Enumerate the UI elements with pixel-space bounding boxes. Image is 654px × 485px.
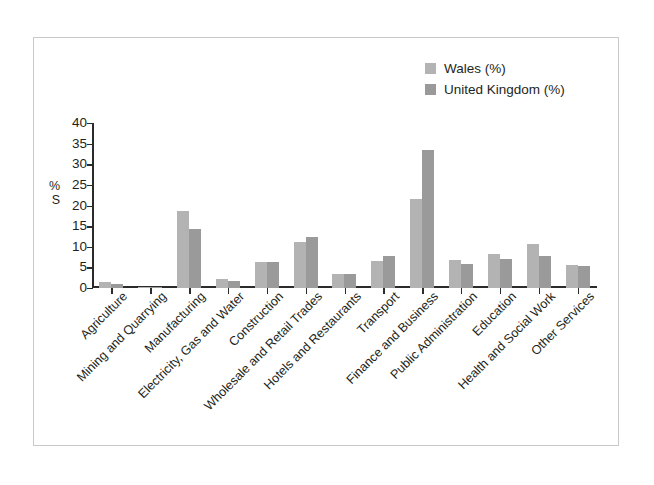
bar-group bbox=[92, 123, 131, 288]
y-axis-tick-mark bbox=[87, 123, 93, 124]
legend-label-united-kingdom: United Kingdom (%) bbox=[444, 83, 565, 97]
bar bbox=[111, 284, 123, 288]
y-axis-tick-label: 0 bbox=[79, 281, 87, 295]
y-axis-tick-mark bbox=[87, 185, 93, 186]
y-axis-tick-label: 15 bbox=[72, 219, 87, 233]
y-axis-tick-mark bbox=[87, 164, 93, 165]
chart-page: Wales (%) United Kingdom (%) % S 4035302… bbox=[0, 0, 654, 485]
bar bbox=[228, 281, 240, 288]
x-axis-category-labels: AgricultureMining and QuarryingManufactu… bbox=[92, 290, 612, 420]
y-axis-tick-mark bbox=[87, 206, 93, 207]
y-axis-title-line-2: S bbox=[40, 194, 60, 208]
y-axis-tick-label: 5 bbox=[79, 261, 87, 275]
y-axis-tick-label: 30 bbox=[72, 158, 87, 172]
legend-swatch-wales bbox=[425, 63, 436, 74]
y-axis-tick-mark bbox=[87, 267, 93, 268]
y-axis-title-line-1: % bbox=[40, 180, 60, 194]
y-axis-tick-labels: 4035302520151050 bbox=[63, 116, 87, 290]
y-axis-tick-label: 40 bbox=[72, 116, 87, 130]
legend-label-wales: Wales (%) bbox=[444, 62, 506, 76]
y-axis-tick-label: 25 bbox=[72, 178, 87, 192]
y-axis-tick-mark bbox=[87, 144, 93, 145]
y-axis-tick-mark bbox=[87, 226, 93, 227]
legend-item-wales: Wales (%) bbox=[425, 62, 565, 76]
chart-legend: Wales (%) United Kingdom (%) bbox=[425, 62, 565, 96]
y-axis-title: % S bbox=[40, 180, 60, 207]
y-axis-tick-mark bbox=[87, 247, 93, 248]
y-axis-tick-label: 20 bbox=[72, 199, 87, 213]
bar bbox=[99, 282, 111, 288]
y-axis-tick-label: 10 bbox=[72, 240, 87, 254]
legend-swatch-united-kingdom bbox=[425, 84, 436, 95]
legend-item-united-kingdom: United Kingdom (%) bbox=[425, 83, 565, 97]
y-axis-tick-label: 35 bbox=[72, 137, 87, 151]
